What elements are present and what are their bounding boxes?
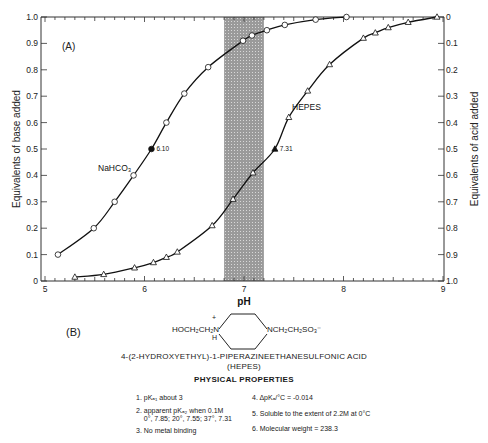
piperazine-ring-icon: [215, 310, 271, 354]
y-tick-label-left: 1.0: [26, 12, 38, 22]
property-3: 3. No metal binding: [136, 427, 196, 435]
y-tick-label-left: 0.2: [26, 223, 38, 233]
series-line-nahco3: [58, 17, 347, 255]
property-1: 1. pKₐ₁ about 3: [136, 394, 183, 402]
compound-abbrev: (HEPES): [0, 362, 488, 371]
y-tick-label-right: 0.9: [446, 250, 458, 260]
y-tick-label-right: 0.3: [446, 91, 458, 101]
data-point-circle: [112, 199, 118, 205]
y-tick-label-left: 0.4: [26, 170, 38, 180]
panel-a-label: (A): [62, 41, 75, 52]
y-tick-label-right: 0: [446, 12, 451, 22]
property-5: 5. Soluble to the extent of 2.2M at 0°C: [252, 410, 370, 418]
hepes-structure-right: NCH₂CH₂SO₃⁻: [267, 325, 321, 334]
y-tick-label-left: 0.6: [26, 118, 38, 128]
buffer-range-band: [224, 17, 264, 281]
x-tick-label: 8: [341, 284, 346, 294]
x-axis-title: pH: [237, 296, 250, 307]
data-point-triangle: [174, 249, 180, 254]
pka-annotation: 6.10: [156, 145, 169, 152]
data-point-circle: [91, 225, 97, 231]
y-tick-label-right: 0.6: [446, 170, 458, 180]
property-6: 6. Molecular weight = 238.3: [252, 425, 338, 433]
data-point-circle: [149, 146, 155, 152]
property-4: 4. ΔpKₐ/°C = -0.014: [252, 394, 313, 402]
y-tick-label-left: 0.8: [26, 65, 38, 75]
data-point-circle: [313, 17, 319, 23]
y-tick-label-right: 0.7: [446, 197, 458, 207]
data-point-circle: [164, 120, 170, 126]
hepes-structure-left: HOCH₂CH₂N: [172, 325, 219, 334]
y-tick-label-left: 0.1: [26, 250, 38, 260]
y-tick-label-right: 0.1: [446, 38, 458, 48]
y-axis-title-right: Equivalents of acid added: [469, 92, 480, 207]
properties-title: PHYSICAL PROPERTIES: [0, 375, 488, 384]
property-2: 2. apparent pKₐ₂ when 0.1M 0°, 7.85; 20°…: [136, 407, 232, 423]
pka-annotation: 7.31: [280, 145, 293, 152]
series-label-hepes: HEPES: [292, 102, 321, 112]
data-point-circle: [240, 38, 246, 44]
data-point-circle: [344, 14, 350, 20]
data-point-circle: [264, 27, 270, 33]
y-tick-label-left: 0.3: [26, 197, 38, 207]
panel-b-label: (B): [66, 326, 81, 338]
titration-chart: 5678900.10.20.30.40.50.60.70.80.91.000.1…: [0, 0, 488, 310]
data-point-circle: [182, 91, 188, 97]
y-tick-label-left: 0.5: [26, 144, 38, 154]
data-point-circle: [249, 33, 255, 39]
structure-left-text: HOCH₂CH₂N: [172, 325, 219, 334]
x-tick-label: 7: [242, 284, 247, 294]
y-tick-label-right: 0.5: [446, 144, 458, 154]
y-tick-label-left: 0.9: [26, 38, 38, 48]
y-tick-label-right: 0.2: [446, 65, 458, 75]
y-tick-label-left: 0: [33, 276, 38, 286]
x-tick-label: 6: [142, 284, 147, 294]
y-axis-title-left: Equivalents of base added: [11, 90, 22, 208]
y-tick-label-right: 0.8: [446, 223, 458, 233]
y-tick-label-left: 0.7: [26, 91, 38, 101]
compound-name: 4-(2-HYDROXYETHYL)-1-PIPERAZINEETHANESUL…: [0, 352, 488, 361]
data-point-triangle: [360, 35, 366, 40]
x-tick-label: 5: [43, 284, 48, 294]
series-label-nahco3: NaHCO₃: [98, 163, 131, 173]
data-point-circle: [55, 252, 61, 258]
y-tick-label-right: 0.4: [446, 118, 458, 128]
y-tick-label-right: 1.0: [446, 276, 458, 286]
data-point-circle: [131, 173, 137, 179]
data-point-circle: [205, 64, 211, 70]
data-point-circle: [282, 22, 288, 28]
x-tick-label: 9: [441, 284, 446, 294]
